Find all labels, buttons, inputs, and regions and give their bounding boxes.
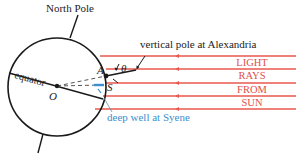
- sun-ray-word: LIGHT: [236, 57, 268, 68]
- sun-ray-word: FROM: [237, 84, 267, 95]
- sun-ray-word: SUN: [241, 97, 262, 108]
- well-arc-mark: [98, 89, 101, 93]
- sun-ray-arrowhead: [175, 81, 179, 85]
- point-s-label: S: [107, 81, 113, 93]
- sun-ray-arrowhead: [175, 54, 179, 58]
- well-caption: deep well at Syene: [107, 111, 190, 123]
- eratosthenes-diagram: North Pole equator O A S θ vertical pole…: [0, 0, 299, 161]
- center-point: [55, 84, 59, 88]
- well-caption-pointer: [104, 98, 112, 112]
- radius-to-s: [57, 85, 100, 86]
- theta-label: θ: [121, 62, 127, 74]
- sun-ray-arrowhead: [175, 67, 179, 71]
- center-label: O: [49, 90, 57, 102]
- north-axis: [70, 15, 78, 38]
- diagram-canvas: North Pole equator O A S θ vertical pole…: [0, 0, 299, 161]
- south-axis: [38, 134, 43, 153]
- sun-ray-word: RAYS: [238, 70, 265, 81]
- pole-caption: vertical pole at Alexandria: [140, 38, 256, 50]
- pole-caption-pointer: [137, 56, 145, 68]
- point-a: [104, 74, 109, 79]
- sun-ray-arrowhead: [175, 94, 179, 98]
- north-pole-label: North Pole: [46, 2, 94, 14]
- point-a-label: A: [96, 64, 104, 76]
- equator-label: equator: [13, 69, 47, 88]
